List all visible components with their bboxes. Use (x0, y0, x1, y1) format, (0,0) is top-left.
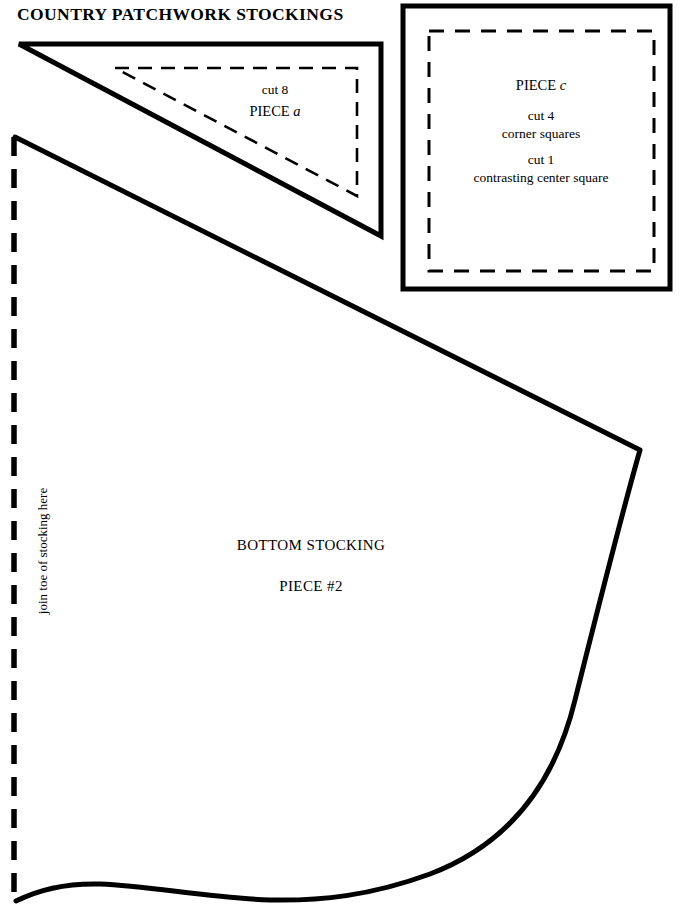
piece-c-label-prefix: PIECE (516, 77, 560, 93)
piece-c-cut-outline (403, 6, 670, 289)
pattern-sheet: COUNTRY PATCHWORK STOCKINGS cut 8 PIECE … (0, 0, 687, 917)
piece-c-label: PIECE c (516, 77, 566, 94)
piece-2-number-label: PIECE #2 (279, 578, 343, 595)
piece-a-cut-instruction: cut 8 (262, 82, 289, 98)
piece-c-group (403, 6, 670, 289)
piece-c-cut-instruction-2: cut 1 (528, 152, 555, 168)
piece-c-cut-instruction-1: cut 4 (528, 108, 555, 124)
join-toe-note: join toe of stocking here (36, 488, 51, 614)
piece-c-cut-description-1: corner squares (502, 126, 580, 142)
piece-c-label-letter: c (560, 77, 566, 93)
pattern-drawing (0, 0, 687, 917)
piece-c-cut-description-2: contrasting center square (474, 170, 609, 186)
piece-a-label-letter: a (293, 103, 300, 119)
piece-a-label: PIECE a (249, 103, 300, 120)
page-title: COUNTRY PATCHWORK STOCKINGS (17, 4, 344, 24)
piece-2-label: BOTTOM STOCKING (237, 537, 385, 554)
piece-a-label-prefix: PIECE (249, 103, 293, 119)
